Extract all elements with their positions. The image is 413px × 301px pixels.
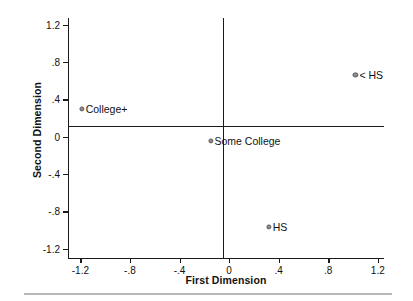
x-tick-label: .4 — [274, 265, 282, 276]
data-point-label: < HS — [359, 69, 383, 81]
x-tick-mark — [328, 258, 329, 263]
data-point-marker[interactable] — [79, 106, 84, 111]
y-tick-mark — [63, 25, 68, 26]
y-tick-mark — [63, 137, 68, 138]
y-tick-label: 0 — [20, 131, 60, 142]
x-tick-mark — [378, 258, 379, 263]
x-tick-mark — [229, 258, 230, 263]
scatter-plot-figure: Second Dimension First Dimension 1.2.8.4… — [0, 0, 413, 301]
y-tick-mark — [63, 249, 68, 250]
y-tick-label: 1.2 — [20, 19, 60, 30]
x-axis-spine — [68, 258, 384, 259]
y-tick-mark — [63, 62, 68, 63]
y-axis-spine — [68, 18, 69, 258]
bottom-divider-rule — [24, 293, 392, 295]
data-point-label: Some College — [215, 135, 281, 147]
x-tick-label: .8 — [324, 265, 332, 276]
y-tick-mark — [63, 99, 68, 100]
x-tick-mark — [130, 258, 131, 263]
x-tick-mark — [180, 258, 181, 263]
data-point-marker[interactable] — [353, 72, 358, 77]
y-tick-mark — [63, 174, 68, 175]
y-tick-label: -1.2 — [20, 243, 60, 254]
data-point-label: College+ — [86, 103, 128, 115]
x-tick-mark — [279, 258, 280, 263]
x-tick-label: -.8 — [124, 265, 136, 276]
x-tick-label: -.4 — [174, 265, 186, 276]
y-tick-label: -.8 — [20, 206, 60, 217]
data-point-label: HS — [273, 221, 288, 233]
data-point-marker[interactable] — [208, 139, 213, 144]
y-tick-label: .8 — [20, 56, 60, 67]
y-tick-mark — [63, 211, 68, 212]
x-tick-label: 1.2 — [371, 265, 385, 276]
data-point-marker[interactable] — [266, 225, 271, 230]
horizontal-zero-reference-line — [68, 126, 384, 128]
y-tick-label: .4 — [20, 94, 60, 105]
y-tick-label: -.4 — [20, 168, 60, 179]
x-tick-label: -1.2 — [72, 265, 89, 276]
x-tick-mark — [80, 258, 81, 263]
plot-area: 1.2.8.40-.4-.8-1.2 -1.2-.8-.40.4.81.2 < … — [68, 18, 384, 258]
x-tick-label: 0 — [226, 265, 232, 276]
